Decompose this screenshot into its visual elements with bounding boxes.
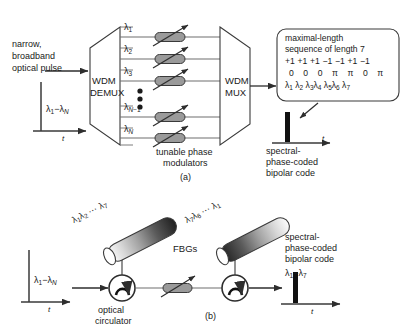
panel-b-input-axis-label: t [48, 304, 50, 315]
wdm-demux-label-line2: DEMUX [90, 87, 124, 98]
circulator-caption-line2: circulator [95, 316, 132, 327]
channel-label-3: λ3 [124, 66, 132, 79]
wdm-mux-label-line1: WDM [225, 75, 249, 86]
channel-label-2: λ2 [124, 44, 132, 57]
wdm-mux-label-line2: MUX [225, 87, 246, 98]
optical-circulator-1 [109, 275, 135, 301]
fbg-array-2 [214, 215, 293, 267]
channel-label-1: λ1 [124, 22, 132, 35]
callout-line2: sequence of length 7 [285, 44, 365, 55]
panel-a-input-plot-label: λ1−λN [46, 104, 69, 117]
input-caption-line3: optical pulse [12, 63, 62, 74]
panel-b-output-caption-line1: spectral- [285, 232, 320, 243]
panel-b-label: (b) [205, 311, 216, 322]
fbgs-label: FBGs [173, 243, 197, 254]
fbg-array-1 [101, 215, 180, 267]
phase-modulator-3 [153, 69, 188, 90]
channel-label-n-1: λN−1 [124, 102, 141, 115]
panel-b-output-axis-label: t [311, 306, 313, 317]
panel-b-output-plot-label: λ1−λ7 [285, 268, 307, 281]
wdm-demux-label-line1: WDM [92, 75, 116, 86]
panel-b-output-caption-line2: phase-coded [285, 243, 337, 254]
phase-modulator-n-minus-1 [153, 105, 188, 126]
wdm-demux-block [90, 27, 120, 145]
phase-modulator-n [153, 126, 188, 147]
panel-a-label: (a) [180, 172, 191, 183]
phase-modulator-1 [153, 25, 188, 46]
optical-spectral-phase-coding-figure: narrow, broadband optical pulse λ1−λN t … [0, 0, 412, 335]
callout-wavelength-list: λ1 λ2 λ3λ4 λ5λ6 λ7 [285, 80, 350, 93]
input-caption-line2: broadband [12, 51, 55, 62]
modulator-caption-line2: modulators [163, 158, 208, 169]
panel-a-output-caption-line2: phase-coded [266, 157, 318, 168]
circulator-caption-line1: optical [98, 305, 124, 316]
panel-a-output-axis-label: t [322, 133, 324, 144]
panel-a-input-axis-label: t [62, 133, 64, 144]
panel-b-output-caption-line3: bipolar code [285, 254, 334, 265]
callout-phase-sequence: 0 0 0 π π 0 π [289, 68, 384, 79]
modulator-caption-line1: tunable phase [156, 147, 213, 158]
panel-b-input-plot-label: λ1−λN [34, 275, 57, 288]
optical-circulator-2 [222, 275, 248, 301]
wdm-mux-block [220, 27, 250, 145]
input-caption-line1: narrow, [12, 39, 42, 50]
callout-bipolar-sequence: +1 +1 +1 −1 −1 +1 −1 [285, 56, 370, 67]
panel-a-output-caption-line1: spectral- [266, 146, 301, 157]
phase-modulator-b [161, 276, 195, 297]
channel-label-n: λN [124, 124, 133, 137]
callout-line1: maximal-length [285, 33, 343, 44]
phase-modulator-2 [153, 47, 188, 68]
panel-a-output-caption-line3: bipolar code [266, 168, 315, 179]
